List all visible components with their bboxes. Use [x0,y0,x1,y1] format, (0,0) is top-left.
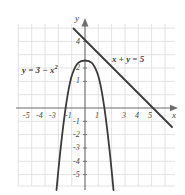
y-tick-label--2: -2 [73,130,80,139]
x-tick-label--5: -5 [23,111,30,120]
x-tick-label-4: 4 [135,111,139,120]
parabola-equation-text: y = 3 − x [22,65,55,75]
x-tick-label--4: -4 [36,111,43,120]
x-tick-label-1: 1 [95,111,99,120]
y-tick-label--4: -4 [73,157,80,166]
x-tick-label-5: 5 [148,111,152,120]
axis-arrowheads [82,18,178,111]
y-tick-label--1: -1 [73,117,80,126]
x-tick-label--1: -1 [65,111,72,120]
y-tick-label-4: 4 [76,37,80,46]
coordinate-plane-svg [0,0,185,195]
x-axis-label: x [172,110,176,120]
graph-figure: -5 -4 -3 -1 1 3 4 5 4 2 1 -1 -2 -3 -4 -5… [0,0,185,195]
y-tick-label--3: -3 [73,143,80,152]
y-tick-label-2: 2 [76,63,80,72]
line-equation-label: x + y = 5 [112,54,144,64]
x-tick-label--3: -3 [49,111,56,120]
axis-lines [16,26,172,190]
grid-lines [18,24,175,186]
y-tick-label--5: -5 [73,170,80,179]
y-tick-label-1: 1 [76,76,80,85]
parabola-equation-exponent: 2 [55,63,58,70]
y-axis-arrow-icon [82,18,89,27]
parabola-equation-label: y = 3 − x2 [22,63,58,75]
y-axis-label: y [75,13,79,23]
x-tick-label-3: 3 [122,111,126,120]
